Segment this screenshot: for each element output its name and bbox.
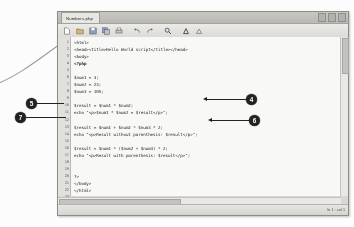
callout-6-arrowhead xyxy=(208,118,212,122)
controls-spacer xyxy=(314,14,316,21)
line-number: 1 xyxy=(67,39,70,46)
line-number: 4 xyxy=(67,60,70,67)
line-number: 22 xyxy=(65,187,70,194)
callout-4-arrowhead xyxy=(203,97,207,101)
code-line: echo "<p>Result without parenthesis: $re… xyxy=(74,131,348,138)
line-number: 2 xyxy=(67,46,70,53)
code-line: <?php xyxy=(74,60,348,67)
find-icon[interactable] xyxy=(162,25,174,37)
code-line: <html> xyxy=(74,39,348,46)
line-number: 18 xyxy=(65,159,70,166)
line-number: 11 xyxy=(65,109,70,116)
editor-window: Numbers.php xyxy=(57,11,349,216)
redo-icon[interactable] xyxy=(144,25,156,37)
code-line: $result = $num1 * ($num2 + $num3) * 2; xyxy=(74,145,348,152)
line-number: 3 xyxy=(67,53,70,60)
callout-6-leader xyxy=(212,120,251,121)
window-controls xyxy=(314,13,346,22)
open-folder-icon[interactable] xyxy=(74,25,86,37)
code-line xyxy=(74,166,348,173)
line-number: 16 xyxy=(65,145,70,152)
run-icon[interactable] xyxy=(180,25,192,37)
code-line xyxy=(74,138,348,145)
code-line xyxy=(74,159,348,166)
line-number: 9 xyxy=(67,95,70,102)
line-number: 19 xyxy=(65,166,70,173)
line-number: 5 xyxy=(67,67,70,74)
line-number: 6 xyxy=(67,74,70,81)
line-number: 15 xyxy=(65,138,70,145)
cursor-position-status: ln 1 : col 1 xyxy=(327,208,348,212)
print-icon[interactable] xyxy=(113,25,125,37)
code-area[interactable]: 1234567891011121314151617181920212223 <h… xyxy=(58,37,348,196)
file-tab[interactable]: Numbers.php xyxy=(61,12,100,23)
stop-icon[interactable] xyxy=(193,25,205,37)
code-line: $num1 = 3; xyxy=(74,74,348,81)
callout-4-leader xyxy=(207,99,249,100)
maximize-icon[interactable] xyxy=(328,13,336,22)
status-bar: ln 1 : col 1 xyxy=(58,204,348,215)
close-icon[interactable] xyxy=(338,13,346,22)
code-line: ?> xyxy=(74,173,348,180)
minimize-icon[interactable] xyxy=(318,13,326,22)
code-line: echo "<p>Result with parenthesis: $resul… xyxy=(74,152,348,159)
line-number: 7 xyxy=(67,81,70,88)
callout-6: 6 xyxy=(249,115,260,126)
callout-5-leader xyxy=(36,103,64,104)
vertical-scrollbar[interactable] xyxy=(340,37,348,196)
vertical-scrollbar-thumb[interactable] xyxy=(342,38,349,74)
code-line: $num2 = 23; xyxy=(74,81,348,88)
code-line: echo "<p>$num1 * $num2 = $result</p>"; xyxy=(74,109,348,116)
save-all-icon[interactable] xyxy=(100,25,112,37)
window-titlebar: Numbers.php xyxy=(58,12,348,24)
undo-icon[interactable] xyxy=(131,25,143,37)
toolbar xyxy=(58,24,348,38)
code-line: </body> xyxy=(74,180,348,187)
code-text[interactable]: <html><head><title>Hello World script</t… xyxy=(71,37,348,196)
code-line: <head><title>Hello World script</title><… xyxy=(74,46,348,53)
line-number: 10 xyxy=(65,102,70,109)
code-line: $result = $num1 * $num2; xyxy=(74,102,348,109)
callout-4: 4 xyxy=(246,94,257,105)
callout-7: 7 xyxy=(15,112,26,123)
line-number: 20 xyxy=(65,173,70,180)
code-line: $result = $num1 + $num2 * $num3 * 2; xyxy=(74,124,348,131)
file-tab-label: Numbers.php xyxy=(66,16,93,21)
line-number: 21 xyxy=(65,180,70,187)
code-line: <body> xyxy=(74,53,348,60)
code-line: </html> xyxy=(74,187,348,194)
line-number: 17 xyxy=(65,152,70,159)
code-line: $num3 = 105; xyxy=(74,88,348,95)
save-icon[interactable] xyxy=(87,25,99,37)
callout-5: 5 xyxy=(26,98,37,109)
code-line xyxy=(74,67,348,74)
line-number: 14 xyxy=(65,131,70,138)
callout-7-leader xyxy=(26,117,66,118)
line-number: 13 xyxy=(65,124,70,131)
new-file-icon[interactable] xyxy=(61,25,73,37)
line-number: 8 xyxy=(67,88,70,95)
